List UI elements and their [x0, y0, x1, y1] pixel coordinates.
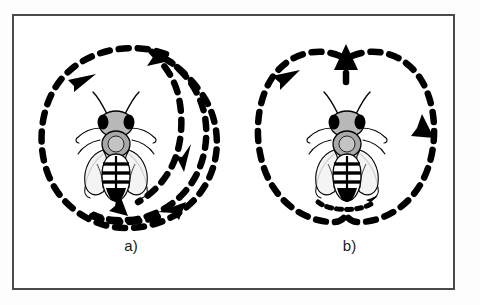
panel-label-a: a): [20, 237, 242, 254]
honeybee-illustration: [304, 88, 390, 206]
figure-root: a): [0, 0, 480, 305]
panel-label-b: b): [239, 237, 460, 254]
panel-waggle-dance: b): [236, 16, 457, 292]
figure-border: a): [12, 14, 455, 290]
waggle-dance-arrow-upper-left: [272, 70, 300, 90]
honeybee-illustration: [73, 88, 159, 206]
panel-round-dance: a): [14, 16, 236, 292]
